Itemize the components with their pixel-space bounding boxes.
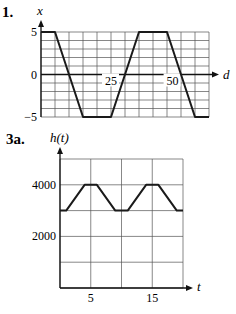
x-tick-label: 50 [167,74,179,88]
y-tick-label: −5 [24,110,37,124]
x-tick-label: 5 [88,291,94,305]
y-axis-label: x [36,3,43,18]
problem-label-1: 1. [2,4,14,20]
y-tick-label: 2000 [32,229,56,243]
x-tick-label: 15 [146,291,158,305]
axes [57,147,193,291]
x-axis-arrow-icon [212,72,219,78]
problem-label-3a: 3a. [6,131,25,147]
figure-canvas: 1. x d 50−52550 3a. h(t) t 40002000515 [0,0,236,314]
x-axis-label: t [197,279,201,294]
axes [38,20,219,117]
y-axis-arrow-icon [38,20,44,27]
x-tick-label: 25 [105,74,117,88]
graph-problem-3a: 3a. h(t) t 40002000515 [6,130,201,305]
y-axis-label: h(t) [50,130,69,145]
tick-labels: 40002000515 [32,178,158,305]
y-tick-label: 4000 [32,178,56,192]
x-axis-label: d [223,67,230,82]
grid-lines [60,159,183,288]
x-axis-arrow-icon [186,285,193,291]
y-tick-label: 0 [31,68,37,82]
y-tick-label: 5 [31,25,37,39]
y-axis-arrow-icon [57,147,63,154]
graph-problem-1: 1. x d 50−52550 [2,3,230,124]
